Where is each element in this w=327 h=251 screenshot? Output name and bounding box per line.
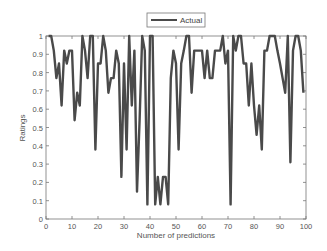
y-tick-label: 0.8 [33,69,43,78]
y-tick-label: 0.7 [33,87,43,96]
x-tick-label: 10 [68,222,76,231]
x-tick-label: 0 [44,222,48,231]
y-tick-label: 1 [39,32,43,41]
legend-label: Actual [180,16,202,25]
x-tick-label: 60 [198,222,206,231]
x-tick-label: 90 [276,222,284,231]
x-tick-label: 100 [300,222,313,231]
y-tick-label: 0.4 [33,142,43,151]
legend: Actual [147,13,205,27]
x-tick-label: 80 [250,222,258,231]
y-tick-label: 0.2 [33,178,43,187]
y-tick-label: 0.9 [33,50,43,59]
x-axis-label: Number of predictions [137,231,215,240]
y-tick-label: 0 [39,215,43,224]
y-tick-label: 0.1 [33,197,43,206]
y-tick-label: 0.5 [33,124,43,133]
y-axis-label: Ratings [18,114,27,141]
x-tick-label: 50 [172,222,180,231]
x-tick-label: 40 [146,222,154,231]
x-tick-label: 20 [94,222,102,231]
y-tick-label: 0.6 [33,105,43,114]
x-tick-label: 70 [224,222,232,231]
y-tick-label: 0.3 [33,160,43,169]
line-chart: 00.10.20.30.40.50.60.70.80.91 0102030405… [0,0,327,251]
x-tick-label: 30 [120,222,128,231]
